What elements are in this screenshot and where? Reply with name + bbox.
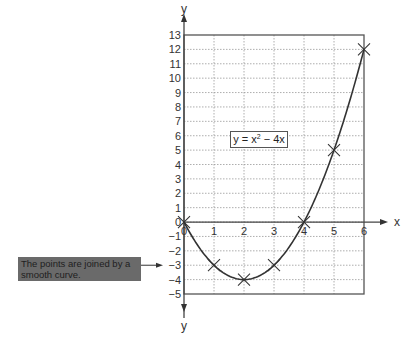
x-tick-label: 5 <box>331 225 337 237</box>
y-tick-label: 8 <box>175 101 181 113</box>
parabola-chart: yyx131211109876543210−1−2−3−4−50123456 <box>0 0 406 337</box>
y-tick-label: 5 <box>175 144 181 156</box>
y-axis-label-bottom: y <box>181 319 187 333</box>
y-tick-label: 10 <box>169 72 181 84</box>
y-tick-label: 2 <box>175 187 181 199</box>
x-axis-arrow-icon <box>380 219 388 225</box>
x-axis-label: x <box>394 215 400 229</box>
y-tick-label: 13 <box>169 29 181 41</box>
x-tick-label: 1 <box>211 225 217 237</box>
y-tick-label: −4 <box>168 274 181 286</box>
y-tick-label: 4 <box>175 159 181 171</box>
x-tick-label: 3 <box>271 225 277 237</box>
x-tick-label: 6 <box>361 225 367 237</box>
y-tick-label: −2 <box>168 245 181 257</box>
y-tick-label: 12 <box>169 43 181 55</box>
equation-label: y = x2 − 4x <box>230 131 288 148</box>
y-tick-label: −3 <box>168 259 181 271</box>
y-tick-label: 11 <box>170 58 181 70</box>
y-tick-label: 6 <box>175 130 181 142</box>
y-tick-label: 3 <box>175 173 181 185</box>
y-axis-arrow-down-icon <box>181 304 187 312</box>
x-tick-label: 2 <box>241 225 247 237</box>
callout-arrow-icon <box>156 263 163 268</box>
y-tick-label: −1 <box>168 230 181 242</box>
y-tick-label: 1 <box>175 202 181 214</box>
y-tick-label: 7 <box>175 115 181 127</box>
y-axis-label-top: y <box>181 2 187 16</box>
y-tick-label: −5 <box>168 288 181 300</box>
y-tick-label: 9 <box>175 87 181 99</box>
smooth-curve-callout: The points are joined by a smooth curve. <box>18 257 141 281</box>
